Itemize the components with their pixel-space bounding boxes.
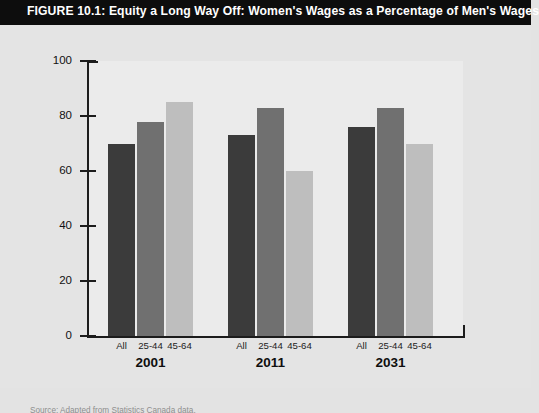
bar-2001-45-64 [166,102,193,336]
y-tick-mark [80,225,96,227]
year-label-2031: 2031 [338,356,443,370]
y-tick-mark [80,170,96,172]
y-tick-label: 0 [36,330,72,342]
y-tick-label: 20 [36,275,72,287]
x-axis-end-cap [463,325,465,338]
y-tick-mark [80,115,96,117]
bar-2031-25-44 [377,108,404,336]
year-label-2001: 2001 [98,356,203,370]
bar-2011-25-44 [257,108,284,336]
figure-title-bar: FIGURE 10.1: Equity a Long Way Off: Wome… [0,0,531,25]
y-axis-line [87,61,89,338]
y-tick-mark [80,335,96,337]
year-label-2011: 2011 [218,356,323,370]
category-label: 45-64 [282,341,317,351]
y-tick-mark [80,280,96,282]
y-tick-label: 80 [36,110,72,122]
y-tick-label: 60 [36,165,72,177]
bar-2011-All [228,135,255,336]
bar-2031-All [348,127,375,336]
y-tick-label: 40 [36,220,72,232]
bar-2001-All [108,144,135,337]
source-note: Source: Adapted from Statistics Canada d… [30,406,196,413]
x-axis-line [87,336,465,338]
y-tick-mark [80,60,96,62]
figure-title: FIGURE 10.1: Equity a Long Way Off: Wome… [27,4,539,18]
bar-2031-45-64 [406,144,433,337]
category-label: 45-64 [402,341,437,351]
bar-2001-25-44 [137,122,164,337]
figure-body: 100806040200 All25-4445-642001All25-4445… [0,25,531,388]
bar-2011-45-64 [286,171,313,336]
category-label: 45-64 [162,341,197,351]
y-tick-label: 100 [36,55,72,67]
